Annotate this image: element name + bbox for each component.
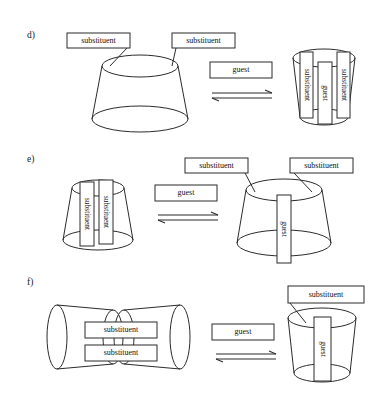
substituent-label: substituent [199,161,234,170]
equilibrium-arrow [212,90,272,101]
cone-side-right [322,190,331,243]
panel-d-middle: guest [210,62,272,101]
scheme-figure: d) substituent substituent guest [0,0,384,400]
substituent-label: substituent [186,36,221,45]
substituent-label: substituent [104,325,139,334]
guest-label: guest [280,221,289,238]
substituent-label: substituent [83,198,92,231]
panel-label-e: e) [27,154,34,165]
cone-side-right [350,318,356,373]
substituent-label: substituent [309,290,344,299]
cone-bottom-rim [63,230,133,250]
equilibrium-arrow [158,212,218,223]
guest-label: guest [319,341,328,358]
guest-label: guest [235,327,253,336]
panel-f-middle: guest [212,324,276,362]
panel-f-right-structure: substituent guest [288,286,364,382]
tether-line [294,173,312,192]
cone-side-bottom-left [57,364,113,369]
cone-side-left [293,58,300,117]
scheme-canvas: d) substituent substituent guest [0,0,384,400]
panel-f: f) substituent substituent guest [27,277,364,382]
equilibrium-arrow [216,351,276,362]
panel-d-right-structure: substituent guest substituent [293,49,355,125]
panel-label-f: f) [27,277,33,288]
cone-top-rim [102,55,178,77]
cone-side-left [237,190,246,243]
guest-label: guest [321,85,330,102]
cone-side-top-right [124,305,180,310]
panel-e-right-structure: substituent substituent guest [185,158,353,263]
substituent-label: substituent [304,161,339,170]
cone-outer-rim-right [170,305,190,369]
cone-side-bottom-right [124,364,180,369]
substituent-label: substituent [303,69,312,102]
cone-side-top-left [57,305,113,310]
guest-label: guest [178,188,196,197]
panel-f-left-structure: substituent substituent [47,305,190,369]
substituent-label: substituent [340,69,349,102]
panel-e-middle: guest [155,185,218,223]
cone-outer-rim-left [47,305,67,369]
cone-bottom-rim [92,106,188,132]
panel-e: e) substituent substituent guest [27,154,353,263]
substituent-label: substituent [104,348,139,357]
guest-label: guest [233,65,251,74]
cone-side-right [124,188,133,240]
cone-side-left [288,318,294,373]
substituent-label: substituent [102,196,111,229]
panel-label-d: d) [27,30,35,41]
panel-d: d) substituent substituent guest [27,30,355,132]
panel-e-left-structure: substituent substituent [63,180,133,250]
cone-side-left [63,188,72,240]
panel-d-left-structure: substituent substituent [67,33,235,132]
substituent-label: substituent [81,36,116,45]
tether-line [172,48,176,66]
